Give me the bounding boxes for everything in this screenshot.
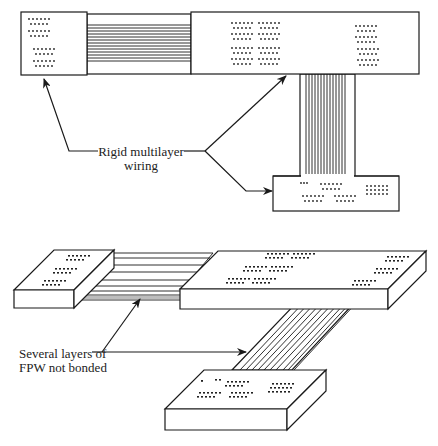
top-label-line-1: Rigid multilayer bbox=[98, 144, 184, 159]
bottom-panel: Several layers of FPW not bonded bbox=[14, 250, 426, 430]
vertical-flex-cable bbox=[300, 74, 355, 178]
left-rigid-block bbox=[14, 250, 114, 308]
top-callout-arrows bbox=[44, 76, 286, 191]
lower-rigid-block bbox=[165, 370, 326, 430]
flex-layers-diagonal bbox=[232, 301, 358, 370]
top-label-line-2: wiring bbox=[124, 158, 158, 173]
main-rigid-block bbox=[180, 251, 426, 309]
diagram-canvas: Rigid multilayer wiring bbox=[0, 0, 438, 446]
lower-rigid-board bbox=[273, 174, 399, 211]
horizontal-flex-cable bbox=[87, 14, 191, 74]
main-rigid-board bbox=[191, 12, 419, 74]
top-panel: Rigid multilayer wiring bbox=[21, 12, 419, 211]
bottom-label-line-2: FPW not bonded bbox=[19, 360, 107, 375]
left-rigid-board bbox=[21, 12, 87, 75]
bottom-label-line-1: Several layers of bbox=[19, 346, 107, 361]
